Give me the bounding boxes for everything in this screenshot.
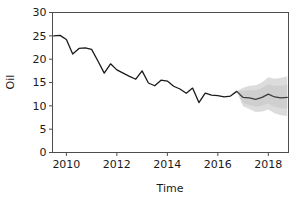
y-tick-label: 5 bbox=[40, 123, 47, 136]
y-axis-title: Oil bbox=[4, 75, 17, 90]
x-tick-label: 2018 bbox=[254, 158, 282, 171]
x-tick-label: 2010 bbox=[52, 158, 80, 171]
x-tick-label: 2012 bbox=[103, 158, 131, 171]
y-tick-label: 30 bbox=[33, 6, 47, 19]
y-tick-label: 15 bbox=[33, 76, 47, 89]
y-tick-label: 0 bbox=[40, 146, 47, 159]
y-tick-label: 20 bbox=[33, 53, 47, 66]
oil-forecast-line-chart: 051015202530 20102012201420162018 Time O… bbox=[0, 0, 304, 201]
x-tick-label: 2014 bbox=[153, 158, 181, 171]
y-tick-label: 25 bbox=[33, 30, 47, 43]
x-axis-title: Time bbox=[156, 182, 184, 195]
y-tick-label: 10 bbox=[33, 100, 47, 113]
x-tick-label: 2016 bbox=[204, 158, 232, 171]
chart-figure: 051015202530 20102012201420162018 Time O… bbox=[0, 0, 304, 201]
